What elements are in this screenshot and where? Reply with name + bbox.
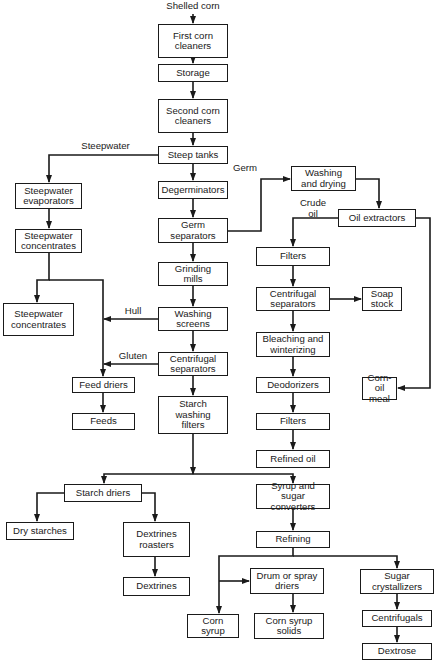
- node-dry-starches: Dry starches: [6, 522, 74, 540]
- node-starch-driers: Starch driers: [64, 484, 142, 502]
- node-oil-extractors: Oil extractors: [338, 209, 416, 227]
- node-second-corn-cleaners: Second corn cleaners: [158, 99, 228, 133]
- node-washing-screens: Washing screens: [158, 307, 228, 331]
- node-steepwater-concentrates-2: Steepwater concentrates: [3, 303, 74, 336]
- node-corn-syrup-solids: Corn syrup solids: [254, 613, 324, 639]
- node-syrup-sugar-converters: Syrup and sugar converters: [256, 484, 330, 509]
- edge-split-starch-driers: [104, 474, 193, 483]
- label-gluten: Gluten: [115, 351, 151, 362]
- node-deodorizers: Deodorizers: [256, 377, 330, 393]
- node-soap-stock: Soap stock: [362, 287, 402, 311]
- edge-steep-sw-evaporators: [49, 155, 158, 182]
- label-germ: Germ: [230, 163, 260, 174]
- node-refining: Refining: [256, 531, 330, 548]
- edge-germ: [228, 179, 290, 231]
- node-centrifugal-separators: Centrifugal separators: [158, 352, 228, 376]
- node-feed-driers: Feed driers: [72, 377, 135, 393]
- node-corn-syrup: Corn syrup: [187, 614, 239, 638]
- edge-washing-drying-oil-ext: [356, 179, 379, 208]
- node-centrifugals: Centrifugals: [362, 610, 432, 627]
- edge-sw-conc-sw-conc2: [37, 253, 49, 302]
- label-crude-oil: Crude oil: [298, 198, 328, 219]
- node-steepwater-evaporators: Steepwater evaporators: [15, 183, 82, 209]
- node-washing-and-drying: Washing and drying: [291, 166, 356, 191]
- process-flow-diagram: Shelled corn First corn cleaners Storage…: [0, 0, 438, 660]
- node-dextrines-roasters: Dextrines roasters: [123, 522, 190, 557]
- node-storage: Storage: [158, 64, 228, 82]
- node-dextrines: Dextrines: [123, 577, 190, 596]
- node-bleaching-winterizing: Bleaching and winterizing: [256, 332, 330, 357]
- node-drum-spray-driers: Drum or spray driers: [250, 568, 324, 594]
- node-steepwater-concentrates-1: Steepwater concentrates: [15, 229, 82, 253]
- label-hull: Hull: [120, 306, 146, 317]
- label-steepwater: Steepwater: [78, 141, 133, 152]
- node-feeds: Feeds: [72, 413, 135, 430]
- node-refined-oil: Refined oil: [256, 450, 330, 468]
- node-dextrose: Dextrose: [362, 643, 432, 660]
- edge-oil-ext-meal: [398, 218, 430, 388]
- node-corn-oil-meal: Corn-oil meal: [362, 377, 397, 400]
- node-filters-2: Filters: [256, 413, 330, 430]
- node-sugar-crystallizers: Sugar crystallizers: [360, 569, 434, 594]
- node-first-corn-cleaners: First corn cleaners: [158, 24, 228, 58]
- edge-refining-sugar: [293, 556, 397, 568]
- node-germ-separators: Germ separators: [158, 218, 228, 243]
- node-steep-tanks: Steep tanks: [158, 146, 228, 164]
- node-degerminators: Degerminators: [158, 181, 228, 199]
- node-oil-centrifugal-separators: Centrifugal separators: [256, 287, 330, 311]
- node-grinding-mills: Grinding mills: [158, 262, 228, 286]
- node-starch-washing-filters: Starch washing filters: [158, 396, 228, 434]
- edge-crude-oil: [293, 218, 338, 246]
- input-label: Shelled corn: [163, 1, 223, 12]
- node-filters-1: Filters: [256, 247, 330, 266]
